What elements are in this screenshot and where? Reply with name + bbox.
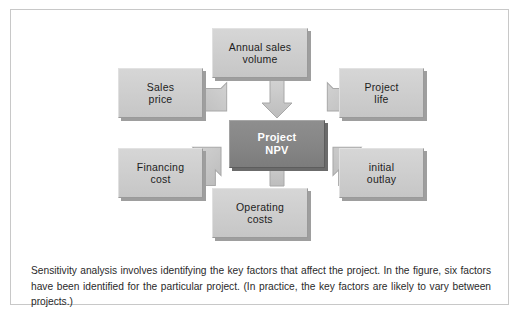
center-box-project-npv[interactable]: Project NPV: [229, 120, 325, 168]
factor-label: Sales price: [147, 81, 174, 106]
sensitivity-analysis-diagram: Annual sales volume Sales price Project …: [11, 10, 508, 250]
factor-box-operating-costs[interactable]: Operating costs: [212, 188, 308, 238]
center-box-label: Project NPV: [258, 131, 297, 157]
factor-box-financing-cost[interactable]: Financing cost: [118, 148, 203, 198]
factor-label: Operating costs: [236, 201, 284, 226]
factor-box-sales-price[interactable]: Sales price: [118, 68, 203, 118]
factor-box-annual-sales-volume[interactable]: Annual sales volume: [212, 28, 308, 78]
factor-box-project-life[interactable]: Project life: [339, 68, 424, 118]
factor-label: Project life: [364, 81, 398, 106]
factor-label: Annual sales volume: [229, 41, 292, 66]
figure-caption: Sensitivity analysis involves identifyin…: [31, 263, 491, 310]
factor-label: initial outlay: [367, 161, 396, 186]
factor-label: Financing cost: [137, 161, 184, 186]
factor-box-initial-outlay[interactable]: initial outlay: [339, 148, 424, 198]
arrow-from-annual-sales-volume: [262, 80, 292, 118]
figure-frame: Annual sales volume Sales price Project …: [10, 9, 509, 305]
